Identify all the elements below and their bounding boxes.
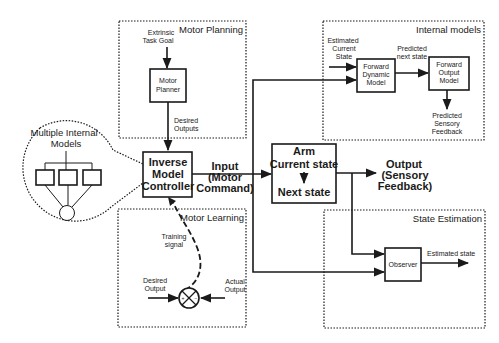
svg-text:Next state: Next state bbox=[278, 186, 331, 198]
svg-text:Inverse: Inverse bbox=[149, 156, 188, 168]
svg-text:Current state: Current state bbox=[270, 158, 338, 170]
svg-text:Output: Output bbox=[438, 69, 459, 77]
svg-text:State: State bbox=[336, 53, 352, 60]
svg-text:Predicted: Predicted bbox=[397, 45, 427, 52]
training-signal-arrowhead-icon bbox=[168, 197, 176, 206]
svg-text:Training: Training bbox=[161, 233, 186, 241]
forward-dynamic-model-block: Forward Dynamic Model bbox=[357, 59, 395, 92]
forward-output-model-block: Forward Output Model bbox=[429, 57, 469, 90]
sensory-feedback-signal: Output (Sensory Feedback) bbox=[336, 158, 433, 254]
desired-output-signal: Desired Output bbox=[143, 277, 178, 298]
motor-planner-block: Motor Planner bbox=[150, 69, 186, 102]
svg-text:next state: next state bbox=[397, 53, 427, 60]
svg-text:Desired: Desired bbox=[174, 117, 198, 124]
svg-text:Output: Output bbox=[144, 285, 165, 293]
task-goal-signal: Extrinsic Task Goal bbox=[142, 29, 174, 68]
inverse-model-controller-block: Inverse Model Controller bbox=[142, 152, 195, 197]
internal-models-label: Internal models bbox=[416, 24, 481, 35]
predicted-next-state-signal: Predicted next state bbox=[395, 45, 428, 73]
multiple-internal-models-callout: Multiple Internal Models bbox=[23, 121, 145, 221]
svg-text:Dynamic: Dynamic bbox=[362, 71, 390, 79]
svg-text:Estimated: Estimated bbox=[327, 37, 358, 44]
motor-learning-region: Motor Learning bbox=[118, 209, 246, 327]
svg-text:Planner: Planner bbox=[156, 86, 181, 93]
svg-text:Desired: Desired bbox=[143, 277, 167, 284]
svg-text:Motor: Motor bbox=[159, 77, 178, 84]
combiner-node-icon bbox=[60, 206, 75, 221]
desired-outputs-signal: Desired Outputs bbox=[168, 102, 199, 150]
callout-title-line2: Models bbox=[51, 138, 82, 149]
svg-text:Output: Output bbox=[224, 286, 245, 294]
sub-model-box-1 bbox=[36, 170, 54, 185]
svg-text:Feedback: Feedback bbox=[432, 128, 463, 135]
svg-text:Observer: Observer bbox=[389, 261, 418, 268]
error-summing-junction: + − bbox=[179, 288, 199, 308]
svg-text:Feedback): Feedback) bbox=[378, 180, 433, 192]
svg-text:Predicted: Predicted bbox=[432, 112, 462, 119]
motor-control-diagram: Motor Planning Internal models Motor Lea… bbox=[0, 0, 499, 343]
svg-text:Sensory: Sensory bbox=[434, 120, 460, 128]
predicted-sensory-feedback-signal: Predicted Sensory Feedback bbox=[432, 90, 463, 135]
svg-text:Arm: Arm bbox=[293, 145, 315, 157]
svg-text:Actual: Actual bbox=[225, 278, 245, 285]
state-estimation-label: State Estimation bbox=[413, 213, 482, 224]
actual-output-signal: Actual Output bbox=[201, 278, 246, 298]
svg-text:Model: Model bbox=[152, 168, 184, 180]
svg-text:Current: Current bbox=[332, 45, 355, 52]
svg-text:+: + bbox=[182, 295, 185, 301]
svg-text:Controller: Controller bbox=[142, 180, 195, 192]
svg-text:Forward: Forward bbox=[436, 61, 462, 68]
arm-block: Arm Current state Next state bbox=[270, 144, 338, 203]
svg-text:Command): Command) bbox=[196, 182, 254, 194]
svg-text:Outputs: Outputs bbox=[174, 125, 199, 133]
svg-text:Forward: Forward bbox=[363, 63, 389, 70]
estimated-state-signal: Estimated state bbox=[421, 250, 475, 263]
motor-learning-label: Motor Learning bbox=[180, 212, 244, 223]
motor-planning-label: Motor Planning bbox=[179, 24, 243, 35]
svg-text:−: − bbox=[195, 295, 198, 301]
callout-title-line1: Multiple Internal bbox=[30, 127, 97, 138]
svg-text:Task Goal: Task Goal bbox=[142, 37, 174, 44]
observer-block: Observer bbox=[385, 248, 421, 281]
estimated-current-state-signal: Estimated Current State bbox=[327, 37, 358, 67]
svg-text:Model: Model bbox=[366, 79, 386, 86]
sub-model-box-2 bbox=[59, 170, 77, 185]
svg-text:signal: signal bbox=[165, 241, 184, 249]
svg-text:Estimated state: Estimated state bbox=[427, 250, 475, 257]
sub-model-box-3 bbox=[83, 170, 101, 185]
svg-text:Model: Model bbox=[439, 77, 459, 84]
training-signal: Training signal bbox=[161, 197, 200, 290]
svg-text:Extrinsic: Extrinsic bbox=[148, 29, 175, 36]
